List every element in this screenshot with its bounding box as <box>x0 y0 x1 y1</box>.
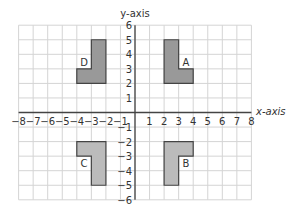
x-tick-label: −5 <box>55 116 70 127</box>
y-tick-label: −4 <box>117 166 132 177</box>
y-tick-label: −6 <box>117 195 132 206</box>
axes <box>19 25 252 200</box>
coordinate-grid-diagram: ABCD −8−7−6−5−4−3−2−112345678654321−1−2−… <box>0 0 299 217</box>
x-tick-label: −4 <box>69 116 84 127</box>
x-tick-label: −3 <box>84 116 99 127</box>
x-tick-label: −2 <box>99 116 114 127</box>
shape-label-c: C <box>81 158 88 169</box>
y-tick-label: 6 <box>126 20 132 31</box>
shape-label-b: B <box>182 158 189 169</box>
y-tick-label: 5 <box>126 35 132 46</box>
y-tick-label: −1 <box>117 122 132 133</box>
x-tick-label: 8 <box>248 116 254 127</box>
x-tick-label: −8 <box>11 116 26 127</box>
y-tick-label: −5 <box>117 180 132 191</box>
x-tick-label: 6 <box>219 116 225 127</box>
shape-label-d: D <box>80 57 88 68</box>
x-tick-label: 1 <box>146 116 152 127</box>
y-tick-label: 1 <box>126 93 132 104</box>
x-tick-label: 3 <box>175 116 181 127</box>
y-tick-label: −2 <box>117 137 132 148</box>
x-tick-label: −7 <box>26 116 41 127</box>
y-axis-label: y-axis <box>120 8 149 19</box>
x-tick-label: 4 <box>190 116 196 127</box>
shape-label-a: A <box>183 57 190 68</box>
y-tick-label: 3 <box>126 64 132 75</box>
y-tick-label: 4 <box>126 49 132 60</box>
y-tick-label: −3 <box>117 151 132 162</box>
y-tick-label: 2 <box>126 78 132 89</box>
x-tick-label: 2 <box>161 116 167 127</box>
x-tick-label: 7 <box>234 116 240 127</box>
x-tick-label: 5 <box>205 116 211 127</box>
x-tick-label: −6 <box>40 116 55 127</box>
x-axis-label: x-axis <box>255 106 286 117</box>
